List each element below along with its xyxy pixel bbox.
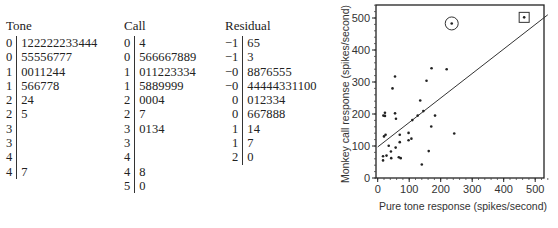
stem: 4 xyxy=(124,165,135,179)
leaves: 667888 xyxy=(243,107,317,121)
leaves: 122222233444 xyxy=(17,36,98,50)
stem: 0 xyxy=(6,50,17,64)
stem: 2 xyxy=(124,93,135,107)
data-points xyxy=(382,12,529,166)
data-point xyxy=(398,134,401,137)
data-point xyxy=(407,132,410,135)
data-point xyxy=(384,115,387,118)
stem: 1 xyxy=(124,79,135,93)
call-row: 0566667889 xyxy=(124,50,196,64)
leaves: 0011244 xyxy=(17,65,98,79)
data-point xyxy=(430,125,433,128)
tone-row: 0122222233444 xyxy=(6,36,97,50)
stem: 1 xyxy=(6,65,17,79)
data-point xyxy=(384,134,387,137)
stem: −1 xyxy=(225,36,243,50)
leaves xyxy=(135,150,197,164)
call-row: 20004 xyxy=(124,93,196,107)
call-title: Call xyxy=(124,18,196,34)
leaves: 0134 xyxy=(135,122,197,136)
data-point xyxy=(411,119,414,122)
data-point xyxy=(395,118,398,121)
data-point xyxy=(398,141,401,144)
residual-row: 20 xyxy=(225,150,317,164)
stem: 0 xyxy=(225,107,243,121)
scatter-plot: 01002003004005000100200300400500 Pure to… xyxy=(340,0,558,228)
data-point xyxy=(434,114,437,117)
stem: 0 xyxy=(6,36,17,50)
leaves xyxy=(17,136,98,150)
leaves: 566667889 xyxy=(135,50,197,64)
leaves: 5 xyxy=(17,107,98,121)
stem: 2 xyxy=(124,107,135,121)
leaves: 65 xyxy=(243,36,317,50)
call-table: 0405666678891011223334158899992000427301… xyxy=(124,36,196,193)
plot-axes: 01002003004005000100200300400500 xyxy=(352,5,548,195)
residual-row: 17 xyxy=(225,136,317,150)
x-tick-label: 300 xyxy=(463,183,481,195)
residual-row: 114 xyxy=(225,122,317,136)
residual-row: −08876555 xyxy=(225,65,317,79)
tone-row: 3 xyxy=(6,122,97,136)
stem: −1 xyxy=(225,50,243,64)
stem: 3 xyxy=(6,122,17,136)
residual-row: −044444331100 xyxy=(225,79,317,93)
call-row: 27 xyxy=(124,107,196,121)
data-point xyxy=(394,112,397,115)
data-point xyxy=(385,154,388,157)
leaves: 011223334 xyxy=(135,65,197,79)
y-tick-label: 300 xyxy=(352,76,370,88)
residual-row: −13 xyxy=(225,50,317,64)
tone-row: 4 xyxy=(6,150,97,164)
leaves: 7 xyxy=(243,136,317,150)
stem: 0 xyxy=(124,50,135,64)
leaves: 44444331100 xyxy=(243,79,317,93)
tone-table: 0122222233444055556777100112441566778224… xyxy=(6,36,97,179)
call-row: 15889999 xyxy=(124,79,196,93)
leaves: 012334 xyxy=(243,93,317,107)
stem: 5 xyxy=(124,179,135,193)
plot-frame xyxy=(376,5,544,178)
y-tick-label: 0 xyxy=(364,172,370,184)
data-point xyxy=(453,132,456,135)
leaves: 24 xyxy=(17,93,98,107)
stem: 3 xyxy=(124,136,135,150)
data-point xyxy=(391,87,394,90)
residual-row: −165 xyxy=(225,36,317,50)
tone-row: 224 xyxy=(6,93,97,107)
data-point xyxy=(382,155,385,158)
residual-stem-plot: Residual −165−13−08876555−04444433110000… xyxy=(225,18,317,165)
y-tick-label: 200 xyxy=(352,108,370,120)
stem: 1 xyxy=(225,122,243,136)
data-point xyxy=(421,163,424,166)
stem: 1 xyxy=(6,79,17,93)
call-row: 3 xyxy=(124,136,196,150)
data-point xyxy=(425,79,428,82)
x-tick-label: 200 xyxy=(432,183,450,195)
data-point xyxy=(410,137,413,140)
y-tick-label: 400 xyxy=(352,44,370,56)
data-point xyxy=(394,146,397,149)
data-point xyxy=(430,67,433,70)
y-tick-label: 500 xyxy=(352,12,370,24)
leaves xyxy=(17,150,98,164)
stem: 0 xyxy=(124,36,135,50)
leaves xyxy=(135,136,197,150)
stem: 4 xyxy=(6,150,17,164)
data-point xyxy=(382,159,385,162)
leaves: 0 xyxy=(243,150,317,164)
data-point xyxy=(445,68,448,71)
stem: −0 xyxy=(225,65,243,79)
data-point xyxy=(399,157,402,160)
data-point xyxy=(390,150,393,153)
leaves: 566778 xyxy=(17,79,98,93)
data-point xyxy=(427,150,430,153)
data-point xyxy=(422,110,425,113)
residual-title: Residual xyxy=(225,18,317,34)
tone-row: 10011244 xyxy=(6,65,97,79)
residual-row: 0667888 xyxy=(225,107,317,121)
data-point xyxy=(394,75,397,78)
leaves: 3 xyxy=(243,50,317,64)
data-point xyxy=(407,139,410,142)
call-row: 48 xyxy=(124,165,196,179)
